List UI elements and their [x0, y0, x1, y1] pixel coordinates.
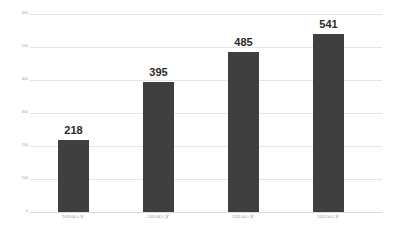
y-axis-tick-label: 600: [4, 12, 28, 16]
x-axis-category-label: 2021.04入学: [203, 216, 283, 220]
bar-value-label: 485: [234, 37, 252, 48]
y-axis-tick-label: 500: [4, 45, 28, 49]
bar[interactable]: [58, 140, 89, 212]
y-axis-tick-label: 200: [4, 144, 28, 148]
y-axis-tick-label: 400: [4, 78, 28, 82]
gridline-600: [30, 14, 382, 15]
bar[interactable]: [313, 34, 344, 212]
bar-chart: 600 500 400 300 200 100 0 218 395 485 54: [0, 0, 402, 239]
x-axis-category-label: 2019.04入学: [33, 216, 113, 220]
bar-value-label: 395: [149, 67, 167, 78]
y-axis-tick-label: 0: [4, 210, 28, 214]
y-axis-tick-label: 100: [4, 177, 28, 181]
y-axis-tick-label: 300: [4, 111, 28, 115]
gridline-0-baseline: [30, 212, 382, 213]
x-axis-category-label: 2020.04入学: [118, 216, 198, 220]
plot-area: 218 395 485 541: [30, 14, 382, 212]
bar[interactable]: [228, 52, 259, 212]
bar-value-label: 218: [64, 125, 82, 136]
x-axis-category-label: 2022.04入学: [288, 216, 368, 220]
bar-value-label: 541: [319, 19, 337, 30]
bar[interactable]: [143, 82, 174, 212]
